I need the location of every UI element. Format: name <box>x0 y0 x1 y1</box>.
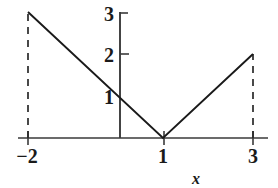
x-axis-title: x <box>192 171 200 187</box>
y-tick-label-2: 2 <box>104 45 114 65</box>
function-curve <box>28 12 253 138</box>
graph-figure: 3 2 1 −2 1 3 x <box>0 0 278 188</box>
x-tick-label-1: 1 <box>158 146 168 166</box>
x-tick-label-neg2: −2 <box>16 146 37 166</box>
y-tick-label-1: 1 <box>104 87 114 107</box>
plot-canvas <box>0 0 278 188</box>
x-tick-label-3: 3 <box>248 146 258 166</box>
y-tick-label-3: 3 <box>104 4 114 24</box>
